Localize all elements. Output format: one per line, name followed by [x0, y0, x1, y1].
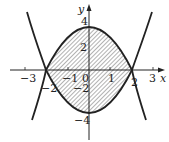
x-tick-1: 1: [108, 72, 115, 85]
x-tick-2: 2: [131, 76, 138, 89]
y-axis-arrow-icon: [87, 4, 92, 11]
x-tick-0: 0: [82, 72, 89, 85]
x-tick-neg1: −1: [62, 72, 78, 85]
x-tick-3: 3: [149, 72, 156, 85]
x-tick-neg3: −3: [20, 72, 36, 85]
x-tick-neg2: −2: [41, 82, 57, 95]
y-tick-2: 2: [80, 41, 87, 54]
x-axis-label: x: [160, 72, 167, 85]
y-tick-neg4: −4: [74, 114, 90, 127]
y-tick-4: 4: [81, 15, 88, 28]
graph: y x 4 2 −2 −4 −3 −2 −1 0 1 2 3: [0, 0, 169, 142]
